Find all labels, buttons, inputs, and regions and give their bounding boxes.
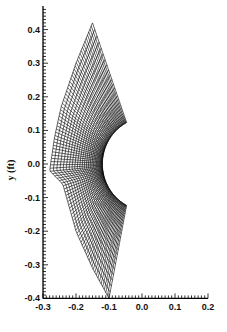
mesh-plot: -0.3-0.2-0.10.00.10.2 0.40.30.20.10.0-0.… [0,0,227,332]
grid-mesh [50,23,127,299]
x-tick-label: 0.1 [169,302,182,312]
y-tick-label: 0.0 [27,159,40,169]
y-tick-label: 0.2 [27,92,40,102]
y-tick-label: 0.4 [27,25,40,35]
x-tick-label: -0.1 [101,302,117,312]
y-tick-label: -0.4 [24,293,40,303]
axes [43,6,208,298]
y-tick-label: 0.1 [27,125,40,135]
y-axis-title: y (ft) [5,160,17,181]
y-tick-labels: 0.40.30.20.10.0-0.1-0.2-0.3-0.4 [24,25,40,304]
x-tick-labels: -0.3-0.2-0.10.00.10.2 [35,302,214,312]
x-tick-label: 0.0 [136,302,149,312]
x-tick-label: 0.2 [202,302,215,312]
x-tick-label: -0.2 [68,302,84,312]
y-tick-label: -0.3 [24,260,40,270]
x-tick-label: -0.3 [35,302,51,312]
y-tick-label: -0.1 [24,193,40,203]
y-tick-label: -0.2 [24,226,40,236]
mesh-lines [50,23,127,299]
y-tick-label: 0.3 [27,58,40,68]
